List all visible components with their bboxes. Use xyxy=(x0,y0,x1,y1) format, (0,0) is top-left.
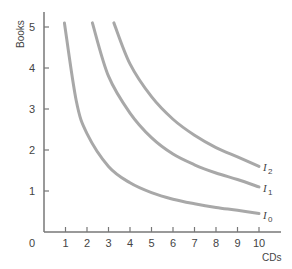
y-tick-label: 3 xyxy=(29,103,35,115)
x-tick-label: 7 xyxy=(191,237,197,249)
x-tick-label: 1 xyxy=(62,237,68,249)
y-tick-label: 2 xyxy=(29,144,35,156)
y-tick-label: 4 xyxy=(29,62,35,74)
x-tick-label: 10 xyxy=(253,237,265,249)
indifference-curve-i1 xyxy=(92,23,259,187)
chart-canvas: 12345678910123450CDsBooksI0I1I2 xyxy=(0,0,292,269)
x-tick-label: 8 xyxy=(213,237,219,249)
curve-label-sub-i0: 0 xyxy=(268,215,273,224)
origin-label: 0 xyxy=(29,237,35,249)
indifference-curve-i2 xyxy=(114,23,259,167)
x-tick-label: 3 xyxy=(105,237,111,249)
y-tick-label: 5 xyxy=(29,21,35,33)
indifference-curve-i0 xyxy=(64,23,259,214)
x-tick-label: 9 xyxy=(234,237,240,249)
curve-label-sub-i1: 1 xyxy=(268,188,273,197)
curve-label-sub-i2: 2 xyxy=(268,167,273,176)
y-axis-label: Books xyxy=(15,20,26,48)
x-axis-label: CDs xyxy=(262,252,281,263)
x-tick-label: 5 xyxy=(148,237,154,249)
x-tick-label: 2 xyxy=(84,237,90,249)
x-tick-label: 6 xyxy=(170,237,176,249)
x-tick-label: 4 xyxy=(127,237,133,249)
indifference-curve-chart: 12345678910123450CDsBooksI0I1I2 xyxy=(0,0,292,269)
y-tick-label: 1 xyxy=(29,185,35,197)
